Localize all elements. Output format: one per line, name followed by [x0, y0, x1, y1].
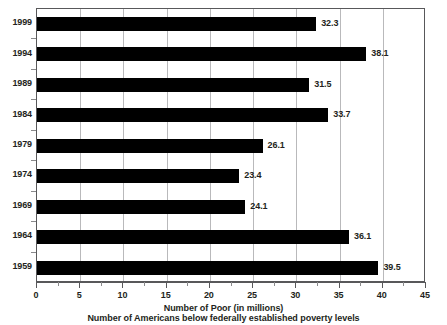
y-axis-tick — [31, 191, 36, 192]
y-axis-tick — [31, 130, 36, 131]
bar — [37, 230, 349, 244]
x-axis-tick — [36, 282, 37, 288]
y-axis-tick — [31, 69, 36, 70]
y-axis-label-1959: 1959 — [0, 261, 32, 272]
bar-value-label: 26.1 — [268, 138, 285, 153]
x-axis-label-0: 0 — [21, 290, 51, 301]
bar-row: 26.1 — [37, 131, 424, 161]
bar-value-label: 23.4 — [244, 168, 261, 183]
x-axis-minor-tick — [360, 282, 361, 286]
x-axis-minor-tick — [403, 282, 404, 286]
bar-value-label: 33.7 — [333, 107, 350, 122]
x-axis-minor-tick — [144, 282, 145, 286]
x-axis-minor-tick — [101, 282, 102, 286]
plot-area: 32.338.131.533.726.123.424.136.139.5 — [36, 8, 425, 282]
x-axis-tick — [425, 282, 426, 288]
bar — [37, 200, 245, 214]
bar-chart: 32.338.131.533.726.123.424.136.139.5 199… — [0, 0, 447, 325]
x-axis-label-25: 25 — [237, 290, 267, 301]
x-axis-label-35: 35 — [324, 290, 354, 301]
x-axis-tick — [252, 282, 253, 288]
y-axis-tick — [31, 221, 36, 222]
bar — [37, 78, 309, 92]
y-axis-label-1974: 1974 — [0, 169, 32, 180]
y-axis-label-1994: 1994 — [0, 48, 32, 59]
x-axis-minor-tick — [317, 282, 318, 286]
y-axis-tick — [31, 160, 36, 161]
bar — [37, 261, 378, 275]
bar-row: 24.1 — [37, 192, 424, 222]
bar-value-label: 31.5 — [314, 77, 331, 92]
y-axis-tick — [31, 252, 36, 253]
chart-title: Number of Americans below federally esta… — [0, 313, 447, 324]
x-axis-tick — [166, 282, 167, 288]
x-axis-tick — [382, 282, 383, 288]
bar — [37, 169, 239, 183]
x-axis-label-40: 40 — [367, 290, 397, 301]
x-axis-tick — [209, 282, 210, 288]
y-axis-label-1964: 1964 — [0, 230, 32, 241]
y-axis-tick — [31, 99, 36, 100]
bar-value-label: 39.5 — [383, 260, 400, 275]
x-axis-label-10: 10 — [107, 290, 137, 301]
bar-row: 39.5 — [37, 253, 424, 283]
x-axis-tick — [339, 282, 340, 288]
x-axis-minor-tick — [58, 282, 59, 286]
x-axis-label-45: 45 — [410, 290, 440, 301]
x-axis-label-5: 5 — [64, 290, 94, 301]
bar-value-label: 38.1 — [371, 46, 388, 61]
bar — [37, 108, 328, 122]
y-axis-label-1999: 1999 — [0, 17, 32, 28]
bar-value-label: 36.1 — [354, 229, 371, 244]
x-axis-label-15: 15 — [151, 290, 181, 301]
x-axis-minor-tick — [231, 282, 232, 286]
x-axis-label-20: 20 — [194, 290, 224, 301]
bar-row: 33.7 — [37, 100, 424, 130]
y-axis-label-1969: 1969 — [0, 200, 32, 211]
bar-row: 32.3 — [37, 9, 424, 39]
y-axis-tick — [31, 38, 36, 39]
x-axis-tick — [295, 282, 296, 288]
bar-value-label: 24.1 — [250, 199, 267, 214]
y-axis-label-1979: 1979 — [0, 139, 32, 150]
x-axis-minor-tick — [274, 282, 275, 286]
y-axis-label-1989: 1989 — [0, 78, 32, 89]
bar-row: 23.4 — [37, 161, 424, 191]
x-axis-tick — [79, 282, 80, 288]
bar — [37, 17, 316, 31]
bar-value-label: 32.3 — [321, 16, 338, 31]
y-axis-label-1984: 1984 — [0, 109, 32, 120]
x-axis-tick — [122, 282, 123, 288]
x-axis-label-30: 30 — [280, 290, 310, 301]
bar-row: 38.1 — [37, 39, 424, 69]
bar-row: 31.5 — [37, 70, 424, 100]
bar — [37, 139, 263, 153]
x-axis-minor-tick — [187, 282, 188, 286]
bar-row: 36.1 — [37, 222, 424, 252]
bar — [37, 47, 366, 61]
